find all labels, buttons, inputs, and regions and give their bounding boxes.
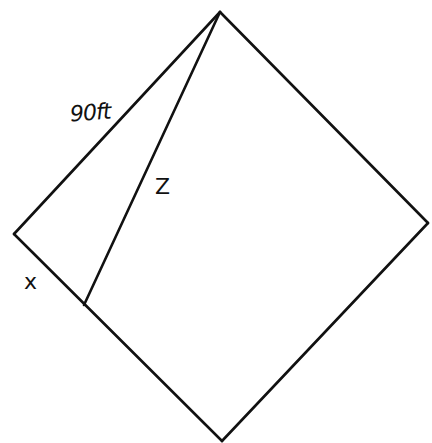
edge-top-left — [14, 12, 220, 234]
edge-bottom-right — [222, 223, 428, 441]
diagram-canvas — [0, 0, 432, 443]
edge-bottom-left — [14, 234, 222, 441]
segment-z — [84, 12, 220, 305]
segment-z-label: Z — [155, 176, 170, 198]
edge-top-right — [220, 12, 428, 223]
partial-side-x-label: x — [24, 271, 37, 293]
side-length-label: 90ft — [69, 101, 111, 126]
